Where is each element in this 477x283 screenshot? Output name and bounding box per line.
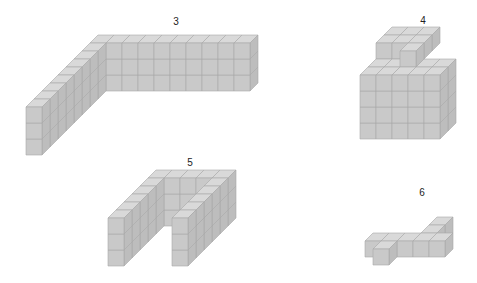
shape-label-6: 6 [419,187,425,198]
cube-diagram [0,0,477,283]
shape-label-3: 3 [173,16,179,27]
shape-6 [365,217,453,265]
shape-5 [108,170,236,266]
shape-label-4: 4 [420,15,426,26]
shape-label-5: 5 [187,157,193,168]
shape-3 [26,35,258,155]
shape-4 [360,27,456,139]
